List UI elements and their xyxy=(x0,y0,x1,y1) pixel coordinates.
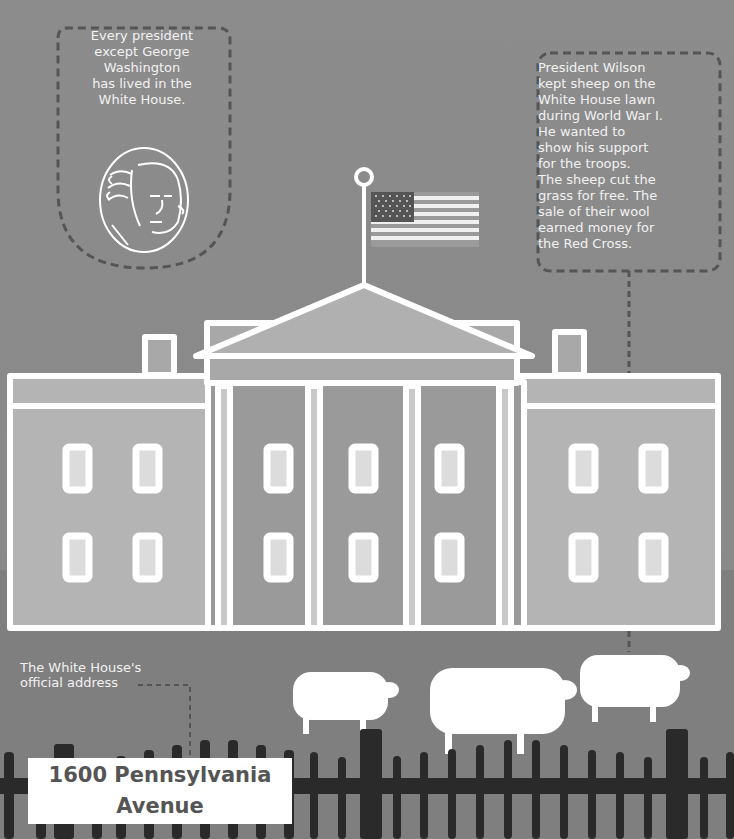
address-line-2: Avenue xyxy=(28,791,292,822)
washington-callout-line: except George xyxy=(58,44,226,60)
address-callout-line: official address xyxy=(20,675,141,690)
address-callout: The White House's official address xyxy=(20,660,141,690)
washington-callout-line: White House. xyxy=(58,92,226,108)
wilson-callout-line: sale of their wool xyxy=(538,204,720,220)
washington-callout-line: Every president xyxy=(58,28,226,44)
wilson-callout-line: grass for free. The xyxy=(538,188,720,204)
address-line-1: 1600 Pennsylvania xyxy=(28,760,292,791)
us-flag-icon xyxy=(371,192,479,247)
wilson-callout-line: President Wilson xyxy=(538,60,720,76)
wilson-callout-line: show his support xyxy=(538,140,720,156)
wilson-callout-line: the Red Cross. xyxy=(538,236,720,252)
wilson-callout-line: The sheep cut the xyxy=(538,172,720,188)
wilson-callout-line: earned money for xyxy=(538,220,720,236)
wilson-callout-line: kept sheep on the xyxy=(538,76,720,92)
wilson-callout: President Wilson kept sheep on the White… xyxy=(538,60,720,252)
washington-callout-line: Washington xyxy=(58,60,226,76)
wilson-callout-line: He wanted to xyxy=(538,124,720,140)
washington-callout: Every president except George Washington… xyxy=(58,28,226,108)
wilson-callout-line: White House lawn xyxy=(538,92,720,108)
washington-callout-line: has lived in the xyxy=(58,76,226,92)
wilson-callout-line: during World War I. xyxy=(538,108,720,124)
wilson-callout-line: for the troops. xyxy=(538,156,720,172)
address-sign: 1600 Pennsylvania Avenue xyxy=(28,758,292,824)
address-callout-line: The White House's xyxy=(20,660,141,675)
